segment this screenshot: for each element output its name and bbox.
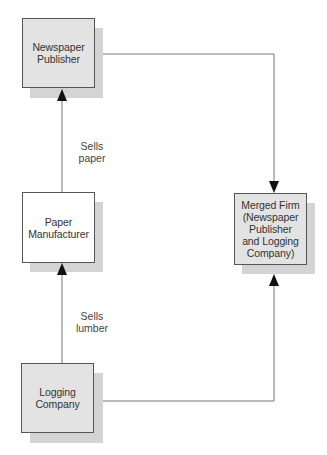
node-logging-company: Logging Company [21, 363, 94, 433]
node-paper-manufacturer: Paper Manufacturer [22, 192, 95, 263]
node-label: Paper Manufacturer [28, 216, 89, 240]
node-label: Logging Company [35, 386, 79, 410]
node-merged-firm: Merged Firm (Newspaper Publisher and Log… [234, 193, 307, 265]
edge-label-sells-paper: Sells paper [70, 140, 114, 164]
arrow-up-icon [57, 263, 67, 275]
arrow-up-icon [269, 274, 279, 286]
edge-label-sells-lumber: Sells lumber [68, 310, 116, 334]
node-newspaper-publisher: Newspaper Publisher [22, 18, 95, 88]
arrow-up-icon [57, 89, 67, 101]
arrow-down-icon [269, 181, 279, 193]
node-label: Newspaper Publisher [32, 41, 84, 65]
node-label: Merged Firm (Newspaper Publisher and Log… [241, 199, 299, 259]
